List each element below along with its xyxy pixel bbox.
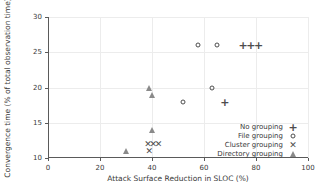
data-point: ✕ xyxy=(155,139,163,148)
circle-marker-icon xyxy=(291,133,296,138)
legend-item-label: File grouping xyxy=(238,132,283,140)
y-axis-tick xyxy=(45,52,48,53)
scatter-chart: Convergence time (% of total observation… xyxy=(0,0,323,191)
y-axis-tick xyxy=(45,17,48,18)
data-point xyxy=(215,43,220,48)
data-point xyxy=(149,92,155,98)
data-point xyxy=(123,148,129,154)
legend-item: Cluster grouping ✕ xyxy=(205,140,303,149)
y-axis-line xyxy=(48,17,49,158)
y-axis-tick-label: 25 xyxy=(20,49,42,56)
y-axis-tick-label: 30 xyxy=(20,14,42,21)
legend-item-label: Directory grouping xyxy=(217,150,283,158)
cross-marker-icon: ✕ xyxy=(289,140,297,149)
y-axis-tick xyxy=(45,123,48,124)
x-axis-tick-label: 20 xyxy=(96,165,105,172)
data-point xyxy=(149,127,155,133)
legend-item-label: Cluster grouping xyxy=(225,141,283,149)
x-axis-tick xyxy=(256,158,257,161)
y-axis-tick-label: 10 xyxy=(20,155,42,162)
y-axis-tick-label: 20 xyxy=(20,84,42,91)
data-point: + xyxy=(254,40,263,51)
x-axis-tick xyxy=(152,158,153,161)
y-axis-tick xyxy=(45,88,48,89)
gridline-vertical xyxy=(308,17,309,158)
x-axis-tick xyxy=(204,158,205,161)
data-point xyxy=(181,99,186,104)
gridline-horizontal xyxy=(48,88,308,89)
legend-swatch-cluster-grouping: ✕ xyxy=(283,140,303,149)
data-point xyxy=(209,85,214,90)
x-axis-tick xyxy=(308,158,309,161)
data-point xyxy=(195,43,200,48)
data-point: + xyxy=(220,96,229,107)
y-axis-title: Convergence time (% of total observation… xyxy=(3,0,12,177)
x-axis-tick-label: 40 xyxy=(148,165,157,172)
gridline-horizontal xyxy=(48,17,308,18)
x-axis-tick xyxy=(48,158,49,161)
gridline-vertical xyxy=(100,17,101,158)
x-axis-tick-label: 0 xyxy=(46,165,50,172)
x-axis-tick-label: 80 xyxy=(252,165,261,172)
legend-item: No grouping + xyxy=(205,122,303,131)
x-axis-title: Attack Surface Reduction in SLOC (%) xyxy=(48,174,308,183)
y-axis-tick-label: 15 xyxy=(20,119,42,126)
legend-item: Directory grouping xyxy=(205,149,303,158)
legend-swatch-no-grouping: + xyxy=(283,122,303,131)
x-axis-tick-label: 100 xyxy=(301,165,314,172)
y-axis-title-container: Convergence time (% of total observation… xyxy=(0,17,14,158)
data-point xyxy=(146,85,152,91)
gridline-horizontal xyxy=(48,52,308,53)
legend-item-label: No grouping xyxy=(240,123,283,131)
legend: No grouping + File grouping Cluster grou… xyxy=(205,122,303,158)
legend-swatch-directory-grouping xyxy=(283,149,303,158)
x-axis-tick-label: 60 xyxy=(200,165,209,172)
x-axis-tick xyxy=(100,158,101,161)
data-point: ✕ xyxy=(146,146,154,155)
triangle-marker-icon xyxy=(290,151,296,157)
